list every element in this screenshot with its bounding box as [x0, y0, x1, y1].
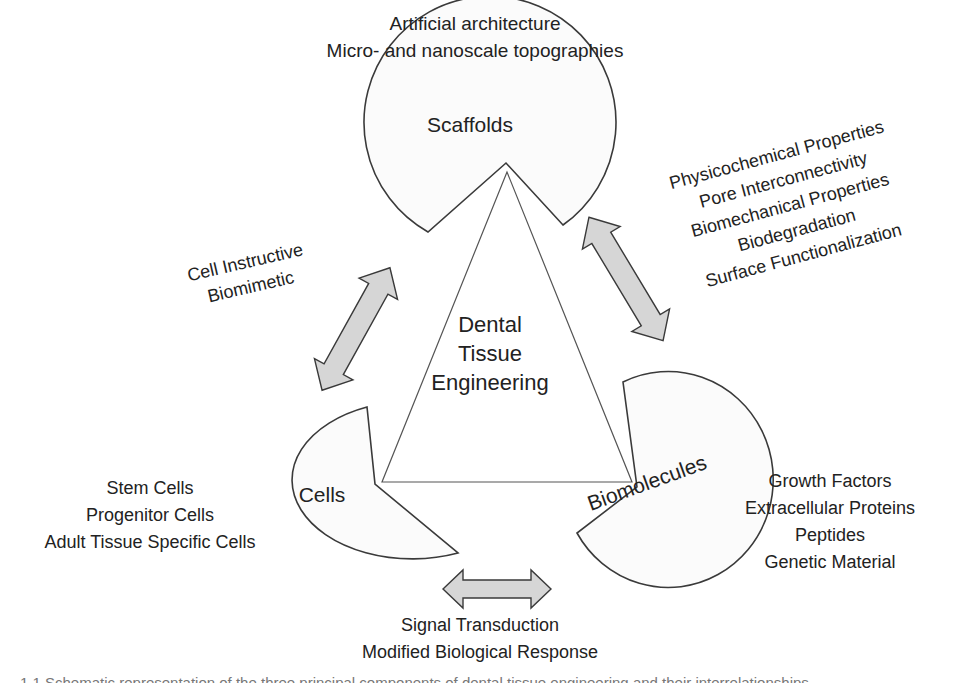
attribute-text: Adult Tissue Specific Cells: [20, 529, 280, 556]
scaffolds-label: Scaffolds: [395, 112, 545, 138]
attribute-text: Micro- and nanoscale topographies: [250, 37, 700, 64]
center-title: Dental Tissue Engineering: [420, 310, 560, 397]
attribute-text: Artificial architecture: [250, 10, 700, 37]
center-title-line: Engineering: [420, 368, 560, 397]
interaction-text: Modified Biological Response: [330, 639, 630, 666]
scaffolds-attributes: Artificial architecture Micro- and nanos…: [250, 10, 700, 64]
biomolecules-attributes: Growth Factors Extracellular Proteins Pe…: [725, 468, 935, 576]
center-title-line: Tissue: [420, 339, 560, 368]
figure-caption: 1.1 Schematic representation of the thre…: [0, 666, 954, 683]
center-title-line: Dental: [420, 310, 560, 339]
attribute-text: Genetic Material: [725, 549, 935, 576]
attribute-text: Peptides: [725, 522, 935, 549]
attribute-text: Growth Factors: [725, 468, 935, 495]
double-arrow-icon: [443, 570, 551, 608]
attribute-text: Stem Cells: [20, 475, 280, 502]
attribute-text: Progenitor Cells: [20, 502, 280, 529]
cells-biomolecules-interaction: Signal Transduction Modified Biological …: [330, 612, 630, 666]
cells-label: Cells: [282, 482, 362, 508]
cells-attributes: Stem Cells Progenitor Cells Adult Tissue…: [20, 475, 280, 556]
interaction-text: Signal Transduction: [330, 612, 630, 639]
attribute-text: Extracellular Proteins: [725, 495, 935, 522]
